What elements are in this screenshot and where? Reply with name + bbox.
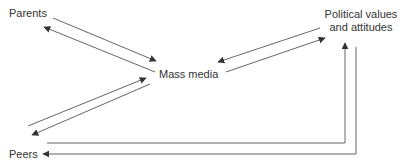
arrow-media-to-peers bbox=[32, 84, 150, 135]
node-parents: Parents bbox=[9, 7, 47, 20]
node-political-values-line2: and attitudes bbox=[322, 21, 400, 34]
node-mass-media: Mass media bbox=[159, 68, 218, 81]
node-peers: Peers bbox=[9, 148, 38, 161]
arrow-peers-to-media bbox=[28, 78, 146, 126]
arrow-media-to-parents bbox=[44, 27, 155, 72]
node-political-values-line1: Political values bbox=[322, 8, 400, 21]
node-political-values: Political values and attitudes bbox=[322, 8, 400, 34]
arrow-parents-to-media bbox=[53, 18, 156, 61]
arrow-peers-to-political bbox=[47, 43, 345, 143]
diagram-canvas: Parents Mass media Political values and … bbox=[0, 0, 406, 166]
